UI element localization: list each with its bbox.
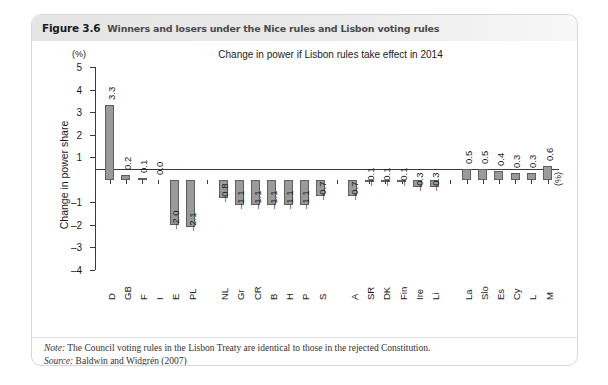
bar: [478, 169, 487, 180]
x-category-label: Es: [495, 289, 506, 300]
x-axis-unit-label: (%): [553, 172, 563, 186]
x-category-label: La: [463, 289, 474, 300]
x-tick: [207, 180, 208, 184]
x-tick: [158, 180, 159, 184]
x-tick: [337, 180, 338, 184]
bar: [543, 166, 552, 180]
source-text: Baldwin and Widgrén (2007): [73, 356, 186, 366]
figure-source: Source: Baldwin and Widgrén (2007): [44, 355, 567, 366]
x-tick: [126, 180, 127, 184]
y-tick-label: 2: [76, 129, 82, 140]
bar: [121, 175, 130, 180]
bar-value-label: 0.2: [122, 157, 133, 170]
y-tick: 5: [90, 67, 95, 68]
y-tick: 2: [90, 135, 95, 136]
bar-value-label: –0.8: [219, 183, 230, 202]
bar-value-label: 0.4: [495, 153, 506, 166]
x-category-label: D: [106, 293, 117, 300]
x-category-label: PL: [187, 288, 198, 300]
y-tick-label: –2: [71, 219, 82, 230]
bar: [527, 173, 536, 180]
y-tick: 1: [90, 157, 95, 158]
bar-value-label: –0.7: [349, 181, 360, 200]
y-tick: –2: [90, 225, 95, 226]
x-category-label: B: [268, 294, 279, 300]
note-text: The Council voting rules in the Lisbon T…: [65, 343, 430, 353]
bar: [494, 171, 503, 180]
figure-header: Figure 3.6 Winners and losers under the …: [32, 15, 577, 41]
x-category-label: E: [170, 294, 181, 300]
bar-value-label: –2.1: [187, 213, 198, 232]
figure-footer: Note: The Council voting rules in the Li…: [32, 337, 578, 366]
bar: [462, 169, 471, 180]
bar-value-label: –1.1: [252, 190, 263, 209]
y-tick-label: –1: [71, 197, 82, 208]
x-category-label: CR: [252, 286, 263, 300]
bar-value-label: –1.1: [268, 190, 279, 209]
bar-value-label: –0.3: [414, 172, 425, 191]
bar-value-label: –1.1: [284, 190, 295, 209]
bar-value-label: 0.6: [544, 148, 555, 161]
bar-value-label: –0.1: [365, 168, 376, 187]
y-axis-title: Change in power share: [58, 85, 70, 265]
x-category-label: NL: [219, 288, 230, 300]
x-category-label: A: [349, 294, 360, 300]
bar-value-label: –1.1: [235, 190, 246, 209]
x-category-label: M: [544, 292, 555, 300]
x-tick: [499, 180, 500, 184]
y-tick-label: 4: [76, 84, 82, 95]
bar-value-label: 0.3: [527, 155, 538, 168]
y-tick-label: –4: [71, 265, 82, 276]
bar-value-label: 0.5: [479, 150, 490, 163]
y-tick-label: 3: [76, 107, 82, 118]
x-category-label: Ire: [414, 289, 425, 300]
y-tick-label: 5: [76, 62, 82, 73]
x-category-label: S: [317, 294, 328, 300]
y-tick: 4: [90, 90, 95, 91]
y-tick-label: –3: [71, 242, 82, 253]
bar: [138, 178, 147, 180]
x-category-label: H: [284, 293, 295, 300]
x-category-label: Cy: [511, 288, 522, 300]
source-label: Source:: [44, 356, 73, 366]
figure-note: Note: The Council voting rules in the Li…: [44, 342, 567, 355]
bar-value-label: –0.1: [381, 168, 392, 187]
bar: [105, 105, 114, 179]
x-category-label: I: [154, 297, 165, 300]
x-tick: [450, 180, 451, 184]
x-tick: [110, 180, 111, 184]
chart-plot-area: (%) Change in power if Lisbon rules take…: [32, 41, 578, 337]
bar-value-label: –0.3: [430, 172, 441, 191]
x-category-label: Slo: [479, 286, 490, 300]
x-tick: [142, 180, 143, 184]
x-tick: [467, 180, 468, 184]
chart-axes: 54321–1–2–3–4 3.30.20.10.0–2.0–2.1–0.8–1…: [95, 67, 559, 270]
x-tick: [515, 180, 516, 184]
chart-title: Change in power if Lisbon rules take eff…: [32, 49, 578, 60]
y-tick: –1: [90, 202, 95, 203]
x-category-label: DK: [381, 287, 392, 300]
bar: [511, 173, 520, 180]
bar-value-label: –2.0: [170, 210, 181, 229]
x-tick: [548, 180, 549, 184]
y-tick-label: 1: [76, 152, 82, 163]
x-category-label: F: [138, 294, 149, 300]
x-tick: [483, 180, 484, 184]
x-tick: [531, 180, 532, 184]
bar-value-label: –0.1: [398, 168, 409, 187]
x-category-label: P: [300, 294, 311, 300]
bar-value-label: –1.1: [300, 190, 311, 209]
figure-number: Figure 3.6: [42, 22, 100, 34]
x-category-label: SR: [365, 287, 376, 300]
x-category-label: Li: [430, 293, 441, 300]
bar-value-label: 0.1: [138, 159, 149, 172]
figure-caption: Winners and losers under the Nice rules …: [107, 23, 439, 34]
y-tick: –3: [90, 247, 95, 248]
x-category-label: GB: [122, 286, 133, 300]
bar-value-label: 3.3: [106, 87, 117, 100]
bar-value-label: 0.0: [154, 162, 165, 175]
figure-card: Figure 3.6 Winners and losers under the …: [31, 14, 578, 366]
x-category-label: Gr: [235, 289, 246, 300]
bar-value-label: 0.5: [463, 150, 474, 163]
bar-value-label: 0.3: [511, 155, 522, 168]
